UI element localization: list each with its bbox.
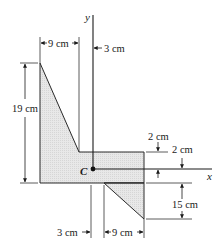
svg-text:19 cm: 19 cm [12,103,38,114]
section-shape [40,63,144,219]
svg-text:2 cm: 2 cm [172,144,193,155]
svg-text:3 cm: 3 cm [57,227,78,238]
svg-text:15 cm: 15 cm [172,199,198,210]
dim-top-web-offset: 3 cm [79,43,125,152]
svg-text:9 cm: 9 cm [48,38,69,49]
svg-text:3 cm: 3 cm [104,43,125,54]
centroid-point [91,167,96,172]
dim-flange-upper: 2 cm [146,131,169,178]
dim-right-height: 15 cm [146,184,198,219]
lower-right-wing [104,183,144,219]
centroid-label: C [80,165,88,177]
svg-text:2 cm: 2 cm [148,131,169,142]
svg-text:9 cm: 9 cm [112,227,133,238]
cross-section-diagram: y x C 9 cm 3 cm 19 cm 2 cm 2 cm [0,0,220,248]
x-axis-label: x [206,170,212,182]
dim-left-height: 19 cm [12,63,38,183]
upper-left-wing [40,63,144,183]
dim-flange-lower: 2 cm [146,144,193,183]
y-axis-label: y [84,11,90,23]
